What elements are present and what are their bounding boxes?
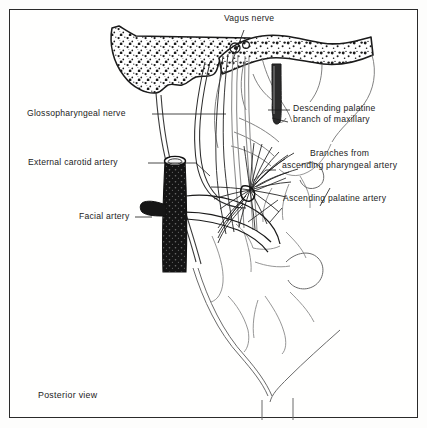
leader-asc-pal-3 bbox=[270, 208, 282, 222]
vagus-nerve-strands-dark bbox=[216, 54, 234, 234]
esophagus-outline bbox=[193, 268, 340, 420]
label-ascending-palatine-artery: Ascending palatine artery bbox=[283, 193, 386, 205]
label-branches-line1: Branches from bbox=[310, 148, 369, 160]
label-glossopharyngeal-nerve: Glossopharyngeal nerve bbox=[27, 108, 126, 120]
anatomy-illustration bbox=[0, 0, 427, 428]
hard-palate-bone bbox=[219, 35, 373, 74]
pharyngeal-recess-outline bbox=[286, 163, 324, 289]
label-facial-artery: Facial artery bbox=[79, 211, 130, 223]
label-external-carotid-artery: External carotid artery bbox=[28, 157, 118, 169]
pharyngeal-constrictor-outlines bbox=[211, 144, 331, 354]
label-branches-line2: ascending pharyngeal artery bbox=[282, 160, 397, 172]
facial-artery-branch bbox=[140, 201, 166, 216]
ascending-palatine-artery-vessel bbox=[186, 195, 280, 252]
external-carotid-artery-trunk bbox=[140, 156, 186, 272]
figure-caption: Posterior view bbox=[38, 390, 97, 400]
descending-palatine-artery-tube bbox=[272, 64, 281, 124]
label-descending-palatine-line1: Descending palatine bbox=[293, 103, 376, 115]
glossopharyngeal-nerve-strand bbox=[195, 62, 246, 208]
anatomical-figure: Vagus nerve Glossopharyngeal nerve Exter… bbox=[0, 0, 427, 428]
label-vagus-nerve: Vagus nerve bbox=[224, 13, 274, 25]
label-descending-palatine-line2: branch of maxillary bbox=[293, 114, 370, 126]
